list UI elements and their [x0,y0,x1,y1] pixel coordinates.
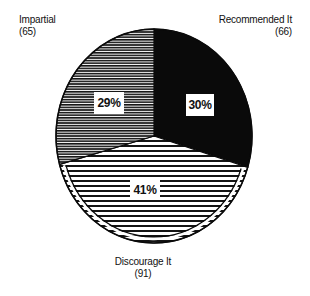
label-discourage: Discourage It (91) [103,256,183,280]
label-recommended-count: (66) [203,26,292,38]
percent-label-impartial: 29% [94,92,124,114]
pie-chart-svg [0,0,310,296]
label-recommended: Recommended It (66) [203,14,292,38]
label-discourage-count: (91) [103,268,183,280]
label-discourage-name: Discourage It [103,256,183,268]
pie-chart: Impartial (65) Recommended It (66) Disco… [0,0,310,296]
label-recommended-name: Recommended It [203,14,292,26]
percent-label-discourage: 41% [130,180,160,200]
pie-slices [56,29,252,243]
label-impartial-name: Impartial [19,14,56,26]
label-impartial-count: (65) [19,26,56,38]
label-impartial: Impartial (65) [19,14,56,38]
percent-label-recommended: 30% [186,94,214,116]
